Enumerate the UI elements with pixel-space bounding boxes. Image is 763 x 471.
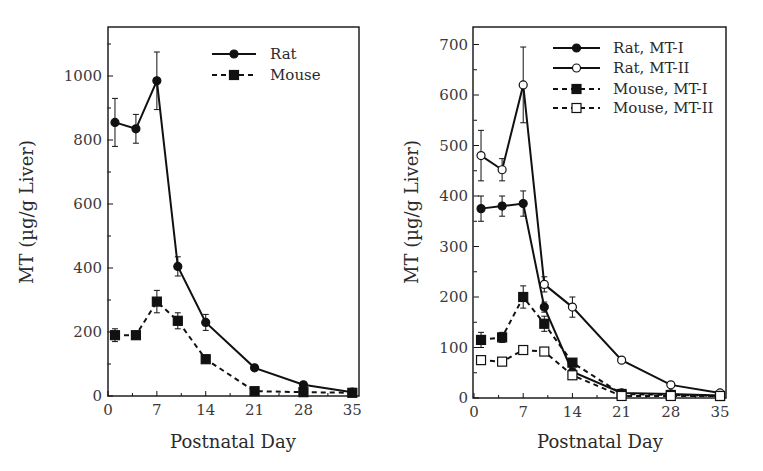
open-square-marker-icon — [568, 371, 577, 380]
y-tick-label: 0 — [92, 387, 102, 405]
y-tick-label: 100 — [439, 339, 468, 357]
legend-item: Mouse, MT-II — [553, 99, 714, 117]
series-line — [481, 297, 720, 396]
filled-square-marker-icon — [131, 331, 140, 340]
y-tick-label: 500 — [439, 137, 468, 155]
left-panel: 02004006008001000 0714212835 RatMouse Po… — [16, 27, 362, 452]
left-y-axis: 02004006008001000 — [64, 44, 113, 405]
x-tick-label: 0 — [469, 403, 479, 421]
filled-square-marker-icon — [348, 388, 357, 397]
open-square-marker-icon — [540, 347, 549, 356]
y-tick-label: 400 — [73, 259, 102, 277]
open-square-marker-icon — [716, 391, 725, 400]
open-square-marker-icon — [498, 357, 507, 366]
open-circle-marker-icon — [568, 303, 576, 311]
filled-circle-marker-icon — [230, 50, 238, 58]
open-square-marker-icon — [519, 346, 528, 355]
y-tick-label: 300 — [439, 238, 468, 256]
legend-item: Mouse — [212, 66, 321, 84]
x-tick-label: 28 — [661, 403, 680, 421]
filled-square-marker-icon — [498, 333, 507, 342]
filled-circle-marker-icon — [519, 200, 527, 208]
filled-circle-marker-icon — [540, 303, 548, 311]
series-line — [481, 85, 720, 393]
open-square-marker-icon — [666, 391, 675, 400]
legend-label: Mouse, MT-II — [613, 99, 714, 117]
right-x-axis-title: Postnatal Day — [537, 431, 664, 452]
y-tick-label: 700 — [439, 36, 468, 54]
series-rat — [111, 52, 356, 396]
series-mouse-mt-ii — [477, 346, 725, 401]
legend-item: Rat, MT-II — [553, 59, 690, 77]
right-legend: Rat, MT-IRat, MT-IIMouse, MT-IMouse, MT-… — [553, 39, 714, 117]
open-circle-marker-icon — [540, 280, 548, 288]
y-tick-label: 400 — [439, 187, 468, 205]
left-x-axis-title: Postnatal Day — [170, 431, 297, 452]
filled-square-marker-icon — [540, 319, 549, 328]
x-tick-label: 14 — [196, 401, 215, 419]
left-series — [110, 52, 356, 397]
filled-circle-marker-icon — [477, 205, 485, 213]
right-panel: 0100200300400500600700 0714212835 Rat, M… — [401, 27, 730, 452]
filled-square-marker-icon — [299, 388, 308, 397]
legend-item: Rat, MT-I — [553, 39, 684, 57]
open-circle-marker-icon — [498, 166, 506, 174]
right-y-axis-title: MT (µg/g Liver) — [401, 140, 422, 284]
y-tick-label: 600 — [73, 195, 102, 213]
filled-square-marker-icon — [477, 335, 486, 344]
legend-label: Mouse, MT-I — [613, 80, 708, 98]
open-circle-marker-icon — [519, 81, 527, 89]
x-tick-label: 21 — [245, 401, 264, 419]
filled-square-marker-icon — [230, 71, 239, 80]
open-square-marker-icon — [572, 104, 581, 113]
right-x-axis: 0714212835 — [469, 393, 729, 421]
filled-square-marker-icon — [568, 358, 577, 367]
filled-circle-marker-icon — [111, 118, 119, 126]
filled-circle-marker-icon — [498, 202, 506, 210]
y-tick-label: 0 — [458, 389, 468, 407]
y-tick-label: 800 — [73, 131, 102, 149]
filled-circle-marker-icon — [573, 44, 581, 52]
x-tick-label: 35 — [343, 401, 362, 419]
x-tick-label: 14 — [563, 403, 582, 421]
open-circle-marker-icon — [573, 64, 581, 72]
x-tick-label: 7 — [152, 401, 162, 419]
filled-square-marker-icon — [519, 293, 528, 302]
y-tick-label: 600 — [439, 86, 468, 104]
figure: 02004006008001000 0714212835 RatMouse Po… — [0, 0, 763, 471]
filled-square-marker-icon — [173, 316, 182, 325]
legend-label: Mouse — [270, 66, 321, 84]
open-circle-marker-icon — [618, 356, 626, 364]
filled-square-marker-icon — [201, 355, 210, 364]
series-line — [481, 350, 720, 396]
legend-label: Rat — [270, 45, 297, 63]
x-tick-label: 21 — [612, 403, 631, 421]
left-legend: RatMouse — [212, 45, 321, 84]
y-tick-label: 200 — [439, 288, 468, 306]
left-plot-frame — [108, 27, 359, 396]
filled-square-marker-icon — [250, 387, 259, 396]
y-tick-label: 200 — [73, 323, 102, 341]
open-circle-marker-icon — [477, 152, 485, 160]
open-square-marker-icon — [477, 356, 486, 365]
x-tick-label: 0 — [103, 401, 113, 419]
legend-item: Mouse, MT-I — [553, 80, 708, 98]
series-rat-mt-i — [477, 191, 724, 400]
legend-item: Rat — [212, 45, 297, 63]
filled-circle-marker-icon — [153, 77, 161, 85]
filled-circle-marker-icon — [251, 364, 259, 372]
y-tick-label: 1000 — [64, 67, 102, 85]
legend-label: Rat, MT-I — [613, 39, 684, 57]
filled-square-marker-icon — [572, 85, 581, 94]
filled-circle-marker-icon — [132, 125, 140, 133]
filled-square-marker-icon — [110, 331, 119, 340]
x-tick-label: 28 — [294, 401, 313, 419]
filled-square-marker-icon — [152, 297, 161, 306]
series-line — [115, 81, 352, 392]
filled-circle-marker-icon — [174, 262, 182, 270]
x-tick-label: 35 — [711, 403, 730, 421]
legend-label: Rat, MT-II — [613, 59, 690, 77]
series-line — [481, 204, 720, 396]
open-circle-marker-icon — [667, 381, 675, 389]
open-square-marker-icon — [617, 391, 626, 400]
